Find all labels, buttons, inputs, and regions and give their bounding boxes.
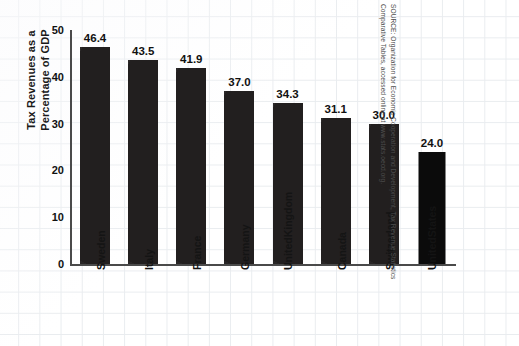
bar-value-label: 34.3 (276, 88, 298, 100)
x-axis-label-line: United (282, 237, 294, 270)
bar-value-label: 46.4 (84, 32, 106, 44)
y-axis-tick-label: 10 (36, 211, 64, 223)
x-axis-label-line: United (426, 237, 438, 270)
bar-slot: 46.4 (71, 30, 119, 264)
y-axis-tick-label: 40 (36, 71, 64, 83)
bar-value-label: 43.5 (132, 45, 154, 57)
x-axis-label-france: France (191, 270, 225, 282)
bar-value-label: 41.9 (180, 53, 202, 65)
x-axis-label-line: States (426, 206, 438, 238)
x-axis-label-sweden: Sweden (95, 270, 135, 282)
x-axis-label-line: Canada (336, 232, 348, 270)
x-axis-label-line: Sweden (95, 230, 107, 270)
y-axis-tick-labels: 01020304050 (36, 24, 64, 264)
plot-area: 46.443.541.937.034.331.130.024.0 (71, 30, 456, 264)
y-axis-tick-label: 0 (36, 258, 64, 270)
y-axis-tick-label: 20 (36, 164, 64, 176)
bar-slot: 41.9 (167, 30, 215, 264)
bar-chart: Tax Revenues as a Percentage of GDP 0102… (0, 0, 519, 346)
bar-italy[interactable] (128, 60, 158, 264)
x-axis-label-united-states: UnitedStates (426, 270, 490, 282)
y-axis-tick-label: 50 (36, 24, 64, 36)
y-axis-tick-label: 30 (36, 118, 64, 130)
x-axis-label-canada: Canada (336, 270, 374, 282)
source-note: SOURCE: Organization for Economic Cooper… (379, 4, 398, 334)
bar-value-label: 37.0 (228, 76, 250, 88)
x-axis-label-germany: Germany (239, 270, 285, 282)
chart-page: Tax Revenues as a Percentage of GDP 0102… (0, 0, 519, 346)
bar-value-label: 31.1 (324, 103, 346, 115)
bar-slot: 31.1 (312, 30, 360, 264)
bar-value-label: 24.0 (421, 137, 443, 149)
x-axis-line (70, 264, 456, 266)
source-note-line-2: Comparative Tables, accessed online at w… (379, 4, 389, 334)
x-axis-label-line: Germany (239, 224, 251, 270)
x-axis-label-italy: Italy (143, 270, 164, 282)
bar-slot: 43.5 (119, 30, 167, 264)
source-note-line-1: SOURCE: Organization for Economic Cooper… (389, 4, 399, 334)
x-axis-label-line: Kingdom (282, 192, 294, 238)
x-axis-label-line: France (191, 236, 203, 270)
x-axis-label-line: Italy (143, 249, 155, 270)
